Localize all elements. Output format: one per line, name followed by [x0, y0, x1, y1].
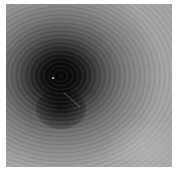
bright-point: [52, 77, 54, 79]
grayscale-image: [6, 4, 172, 167]
